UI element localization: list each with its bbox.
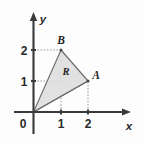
- x-axis-tick-label-2: 2: [85, 117, 92, 131]
- y-axis-arrowhead: [30, 12, 37, 21]
- vertex-dot-a: [87, 80, 90, 83]
- origin-label: 0: [20, 117, 27, 131]
- y-axis-label: y: [39, 13, 47, 25]
- coordinate-plane-figure: 1 2 1 2 0 y x B A R: [0, 0, 143, 144]
- point-label-a: A: [91, 69, 100, 81]
- x-axis-arrowhead: [122, 108, 131, 115]
- plot-canvas: 1 2 1 2 0 y x B A R: [0, 0, 143, 144]
- y-axis-tick-label-2: 2: [21, 44, 28, 58]
- point-label-b: B: [56, 34, 65, 46]
- x-axis-tick-label-1: 1: [58, 117, 65, 131]
- y-axis-tick-label-1: 1: [21, 75, 28, 89]
- vertex-dot-b: [60, 49, 63, 52]
- region-label-r: R: [61, 66, 69, 77]
- x-axis-label: x: [125, 120, 133, 132]
